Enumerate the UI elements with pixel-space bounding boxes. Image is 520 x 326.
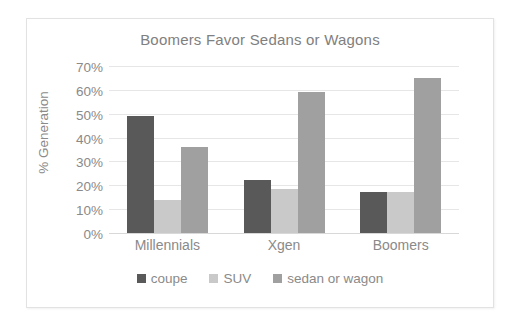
bar-set [226,67,343,234]
y-axis-tick-labels: 0%10%20%30%40%50%60%70% [55,67,103,234]
bar-group [226,67,343,234]
chart-container: Boomers Favor Sedans or Wagons % Generat… [26,18,494,308]
bar-coupe[interactable] [127,116,154,234]
legend-item-suv[interactable]: SUV [209,271,251,286]
bar-sedan-or-wagon[interactable] [298,92,325,234]
bar-sedan-or-wagon[interactable] [414,78,441,234]
bar-groups [109,67,459,234]
legend-label: SUV [223,271,251,286]
chart-legend: coupeSUVsedan or wagon [27,271,493,286]
y-axis-tick-label: 50% [76,107,103,122]
y-axis-title: % Generation [36,73,51,193]
legend-swatch-icon [273,274,282,283]
bar-suv[interactable] [387,192,414,234]
y-axis-tick-label: 70% [76,60,103,75]
bar-suv[interactable] [271,189,298,234]
legend-swatch-icon [137,274,146,283]
bar-group [109,67,226,234]
plot-area [109,67,459,234]
legend-label: coupe [151,271,188,286]
bar-group [342,67,459,234]
x-axis-category-label: Millennials [109,237,226,253]
bar-set [109,67,226,234]
legend-item-sedan-or-wagon[interactable]: sedan or wagon [273,271,383,286]
bar-set [342,67,459,234]
x-axis-category-labels: MillennialsXgenBoomers [109,237,459,253]
x-axis-category-label: Xgen [226,237,343,253]
legend-item-coupe[interactable]: coupe [137,271,188,286]
bar-suv[interactable] [154,200,181,234]
x-axis-baseline [109,233,459,234]
legend-swatch-icon [209,274,218,283]
bar-coupe[interactable] [360,192,387,234]
bar-coupe[interactable] [244,180,271,234]
x-axis-category-label: Boomers [342,237,459,253]
legend-label: sedan or wagon [287,271,383,286]
y-axis-tick-label: 60% [76,83,103,98]
y-axis-tick-label: 10% [76,203,103,218]
y-axis-tick-label: 30% [76,155,103,170]
y-axis-tick-label: 0% [83,227,103,242]
bar-sedan-or-wagon[interactable] [181,147,208,234]
y-axis-tick-label: 40% [76,131,103,146]
chart-title: Boomers Favor Sedans or Wagons [27,31,493,48]
y-axis-tick-label: 20% [76,179,103,194]
